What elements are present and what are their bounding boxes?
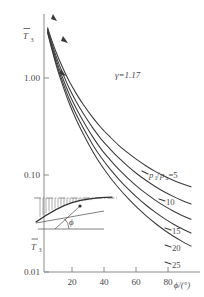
- y-ticklabel-3: 0.01: [24, 267, 40, 277]
- x-ticklabel-80: 80: [163, 277, 173, 287]
- curve-p1pa-25: [48, 33, 191, 246]
- curves-group: [48, 28, 191, 246]
- y-ticklabel-2: 0.10: [24, 170, 40, 180]
- y-axis-ticks: [44, 78, 49, 272]
- curve-label-5-value: =5: [169, 170, 178, 180]
- arrow-tip-second: [61, 36, 68, 43]
- figure-container: 1.00 0.10 0.01 20 40 60 80 ϕ/(°) T 3: [0, 0, 204, 297]
- inset-point-marker: [78, 204, 81, 207]
- leader-15: [165, 228, 171, 230]
- x-ticklabel-60: 60: [131, 277, 141, 287]
- leader-5: [142, 171, 148, 174]
- curve-label-leaders: [142, 171, 171, 264]
- curve-label-15: 15: [172, 226, 181, 236]
- y-axis-title-symbol: T: [23, 31, 29, 41]
- curve-label-5: p: [148, 170, 154, 180]
- inset-label-subscript: 3: [39, 246, 42, 253]
- inset-angle-label: ϕ: [69, 217, 74, 227]
- curve-label-25: 25: [172, 260, 181, 270]
- x-ticklabel-40: 40: [99, 277, 109, 287]
- x-axis-tick-labels: 20 40 60 80: [67, 277, 173, 287]
- y-ticklabel-1: 1.00: [24, 73, 40, 83]
- x-axis-title: ϕ/(°): [174, 280, 190, 290]
- curve-label-5-p2: p: [159, 170, 165, 180]
- leader-25: [165, 262, 171, 264]
- curve-p1pa-5: [48, 28, 191, 187]
- x-ticklabel-20: 20: [67, 277, 77, 287]
- inset-shock-curve: [36, 197, 112, 222]
- leader-10: [159, 199, 165, 201]
- curve-label-20: 20: [172, 243, 181, 253]
- inset-angle-arm: [55, 206, 80, 229]
- curve-p1pa-15: [48, 30, 191, 219]
- gamma-annotation: γ=1.17: [115, 70, 141, 80]
- curve-label-5-group: p 1 / p a =5: [148, 170, 178, 181]
- x-axis-ticks: [72, 267, 168, 272]
- y-axis-title: T 3: [23, 29, 34, 43]
- arrow-tip-top: [51, 14, 57, 21]
- y-axis-title-subscript: 3: [31, 36, 34, 43]
- inset-temperature-label: T 3: [31, 239, 42, 253]
- leader-20: [165, 245, 171, 247]
- curve-label-10: 10: [166, 197, 175, 207]
- chart-canvas: 1.00 0.10 0.01 20 40 60 80 ϕ/(°) T 3: [0, 0, 204, 297]
- inset-label-symbol: T: [31, 242, 37, 252]
